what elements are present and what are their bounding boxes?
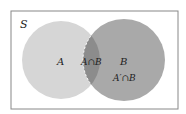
venn-diagram: S A A∩B B A′∩B (0, 0, 186, 114)
intersection-label: A∩B (80, 57, 102, 67)
universe-label: S (20, 18, 28, 31)
set-b-label: B (119, 56, 127, 67)
set-a-label: A (56, 56, 64, 67)
b-only-label: A′∩B (112, 73, 136, 83)
